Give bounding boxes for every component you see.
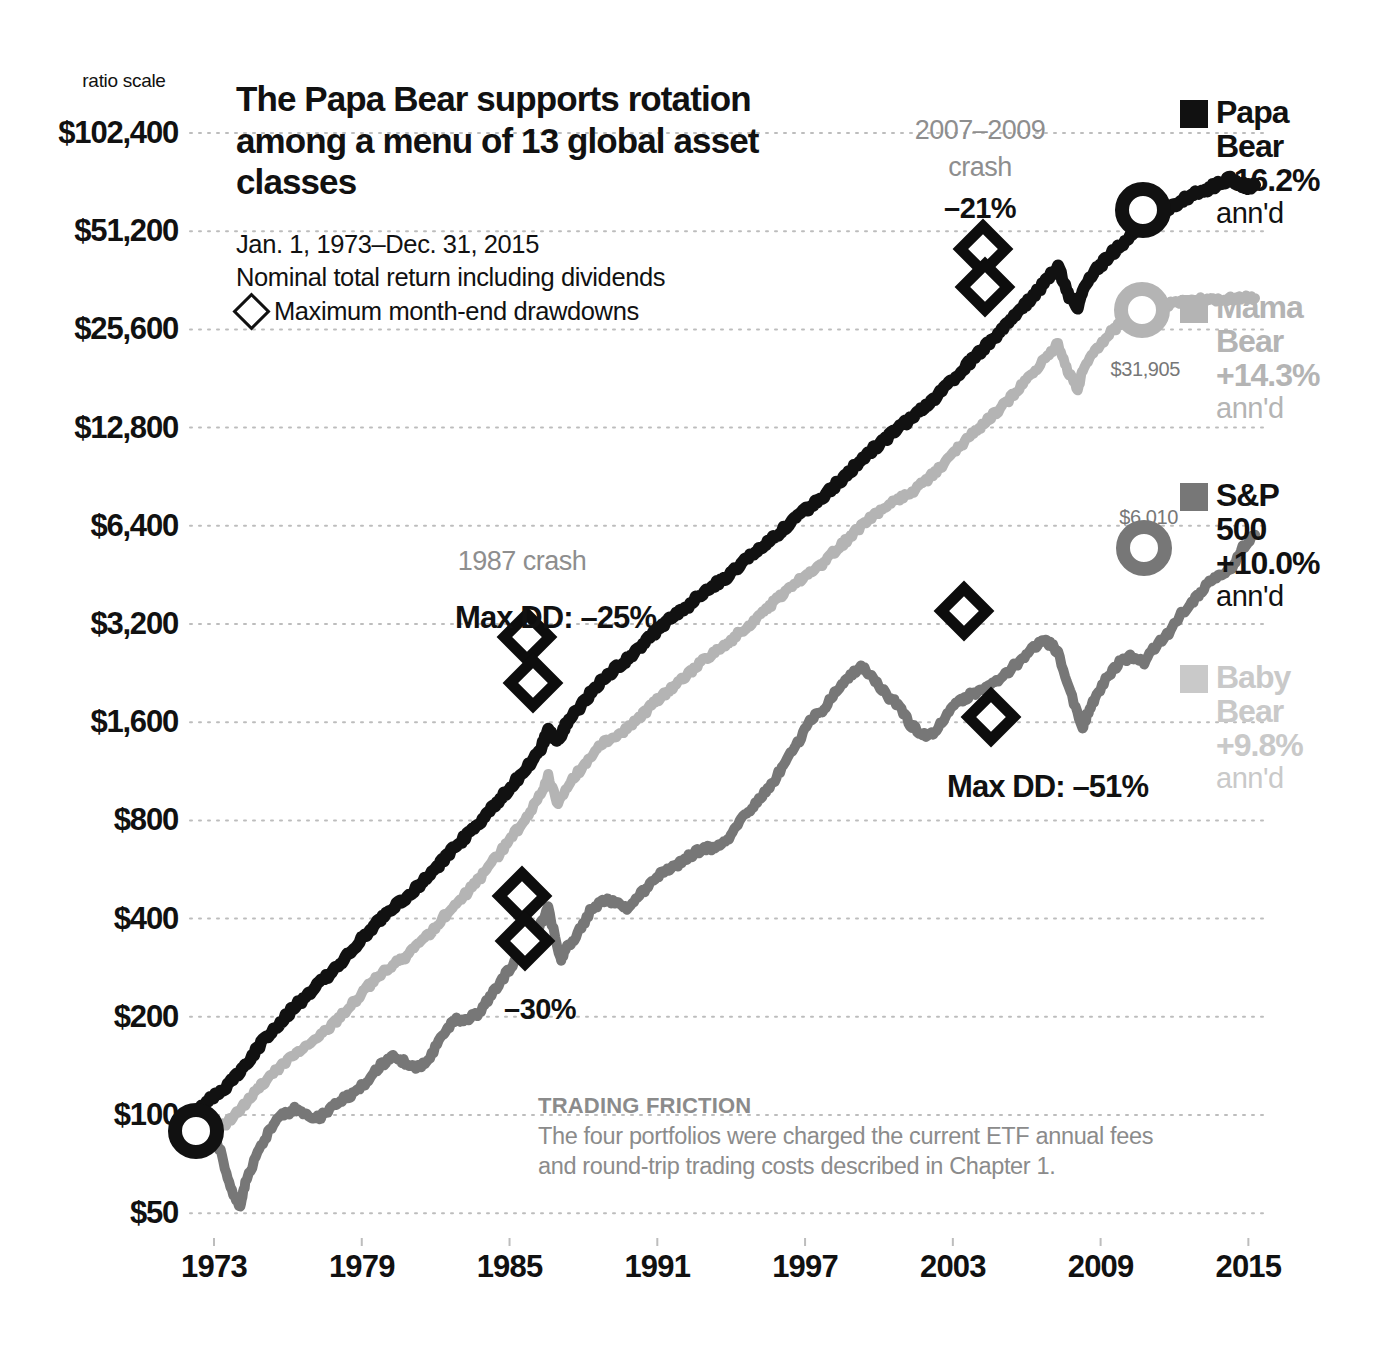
trading-friction-heading: TRADING FRICTION bbox=[538, 1093, 1158, 1119]
legend-label-line2: Bear bbox=[1216, 129, 1319, 163]
endpoint-ring bbox=[1121, 289, 1163, 331]
trading-friction-body: The four portfolios were charged the cur… bbox=[538, 1122, 1158, 1181]
drawdown-marker bbox=[510, 660, 555, 705]
endpoint-value-label: $31,905 bbox=[1111, 358, 1181, 381]
legend-annual-return: +9.8% bbox=[1216, 728, 1303, 762]
drawdown-diamond-markers bbox=[499, 226, 1013, 963]
legend-annualized-suffix: ann'd bbox=[1216, 393, 1319, 425]
legend-item-baby-bear[interactable]: BabyBear+9.8%ann'd bbox=[1180, 660, 1303, 795]
annotation-crash-1987: 1987 crash bbox=[458, 546, 587, 578]
drawdown-marker bbox=[499, 873, 544, 918]
page-title: The Papa Bear supports rotation among a … bbox=[236, 78, 776, 203]
legend-item-s-p-500[interactable]: S&P500+10.0%ann'd bbox=[1180, 478, 1319, 613]
legend-swatch-icon bbox=[1180, 295, 1208, 323]
legend-label-line1: Mama bbox=[1216, 290, 1319, 324]
legend-item-papa-bear[interactable]: PapaBear+16.2%ann'd bbox=[1180, 95, 1319, 230]
legend-annual-return: +14.3% bbox=[1216, 358, 1319, 392]
drawdown-marker bbox=[962, 264, 1007, 309]
endpoint-rings bbox=[175, 189, 1165, 1152]
series-line-mama-bear bbox=[196, 296, 1255, 1127]
annotation-crash-2007-2009-line1: 2007–2009 bbox=[915, 115, 1046, 147]
legend-label-line2: Bear bbox=[1216, 324, 1319, 358]
legend-label-line2: 500 bbox=[1216, 512, 1319, 546]
legend-label-line1: Papa bbox=[1216, 95, 1319, 129]
diamond-icon bbox=[232, 292, 270, 330]
trading-friction-note: TRADING FRICTION The four portfolios wer… bbox=[538, 1093, 1158, 1181]
drawdown-marker bbox=[968, 694, 1013, 739]
legend-annualized-suffix: ann'd bbox=[1216, 581, 1319, 613]
legend-label-line1: S&P bbox=[1216, 478, 1319, 512]
legend-annual-return: +10.0% bbox=[1216, 546, 1319, 580]
series-lines bbox=[196, 177, 1255, 1207]
legend-swatch-icon bbox=[1180, 665, 1208, 693]
annotation-crash-2007-2009-pct: –21% bbox=[944, 192, 1016, 225]
endpoint-value-label: $6,010 bbox=[1119, 506, 1178, 529]
legend-annualized-suffix: ann'd bbox=[1216, 763, 1303, 795]
drawdown-key-row: Maximum month-end drawdowns bbox=[236, 295, 836, 328]
subtitle-returnbasis: Nominal total return including dividends bbox=[236, 261, 836, 294]
legend-annualized-suffix: ann'd bbox=[1216, 198, 1319, 230]
subtitle-block: Jan. 1, 1973–Dec. 31, 2015 Nominal total… bbox=[236, 228, 836, 328]
annotation-maxdd-sp500: Max DD: –51% bbox=[947, 769, 1148, 805]
legend-annual-return: +16.2% bbox=[1216, 163, 1319, 197]
drawdown-marker bbox=[941, 588, 986, 633]
annotation-maxdd-baby: –30% bbox=[504, 993, 576, 1026]
endpoint-ring bbox=[175, 1110, 217, 1152]
drawdown-key-label: Maximum month-end drawdowns bbox=[274, 295, 639, 328]
subtitle-daterange: Jan. 1, 1973–Dec. 31, 2015 bbox=[236, 228, 836, 261]
endpoint-ring bbox=[1122, 189, 1164, 231]
legend-swatch-icon bbox=[1180, 483, 1208, 511]
annotation-maxdd-papa: Max DD: –25% bbox=[455, 600, 656, 636]
chart-figure: ratio scale $102,400$51,200$25,600$12,80… bbox=[0, 0, 1381, 1357]
legend-label-line2: Bear bbox=[1216, 694, 1303, 728]
legend-item-mama-bear[interactable]: MamaBear+14.3%ann'd bbox=[1180, 290, 1319, 425]
annotation-crash-2007-2009-line2: crash bbox=[948, 152, 1012, 184]
endpoint-ring bbox=[1123, 527, 1165, 569]
legend-swatch-icon bbox=[1180, 100, 1208, 128]
legend-label-line1: Baby bbox=[1216, 660, 1303, 694]
